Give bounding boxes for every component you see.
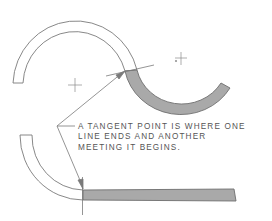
caption-line-3: MEETING IT BEGINS. xyxy=(78,143,246,153)
tangent-point-caption: A TANGENT POINT IS WHERE ONE LINE ENDS A… xyxy=(78,122,246,153)
upper-arc-center-mark xyxy=(68,78,82,92)
shaded-lower-arc xyxy=(125,70,230,115)
lower-curve xyxy=(20,135,83,200)
shaded-arc-center-mark xyxy=(175,52,187,65)
tangent-point-diagram xyxy=(0,0,272,221)
caption-line-1: A TANGENT POINT IS WHERE ONE xyxy=(78,122,246,132)
leader-to-upper-tangent-point xyxy=(57,73,122,126)
arrowhead-upper xyxy=(116,71,125,79)
caption-line-2: LINE ENDS AND ANOTHER xyxy=(78,132,246,142)
shaded-straight-bar xyxy=(83,189,236,201)
arrowhead-lower xyxy=(78,179,83,189)
